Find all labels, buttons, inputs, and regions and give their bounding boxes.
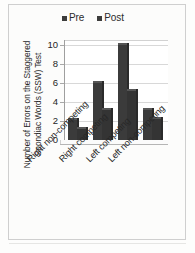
legend-item-post: Post: [97, 13, 124, 23]
page-frame-shadow: [9, 243, 186, 244]
chart-legend: Pre Post: [62, 13, 124, 23]
legend-item-pre: Pre: [62, 13, 84, 23]
legend-swatch-icon-post: [97, 16, 102, 21]
legend-label-post: Post: [104, 13, 124, 23]
bar-post-right-competing[interactable]: [102, 110, 111, 140]
bar-post-right-non-competing[interactable]: [77, 129, 86, 140]
y-tick-10: 10: [47, 40, 58, 50]
bar-group-right-competing: [93, 40, 111, 140]
bar-post-left-competing[interactable]: [127, 91, 136, 140]
y-tick-8: 8: [53, 59, 58, 69]
y-tick-4: 4: [53, 97, 58, 107]
y-tick-2: 2: [53, 116, 58, 126]
bar-group-right-non-competing: [68, 40, 86, 140]
bar-group-left-competing: [118, 40, 136, 140]
bar-post-left-non-competing[interactable]: [152, 119, 161, 140]
bar-pre-right-non-competing[interactable]: [68, 120, 77, 140]
chart-figure: Pre Post Number of Errors on the Stagger…: [0, 0, 195, 253]
plot-area: [60, 40, 168, 145]
legend-label-pre: Pre: [69, 13, 84, 23]
bar-group-left-non-competing: [143, 40, 161, 140]
y-axis-tick-labels: 0 2 4 6 8 10: [42, 40, 58, 145]
x-axis-line: [60, 144, 168, 145]
y-axis-title: Number of Errors on the Staggered Spondi…: [22, 27, 43, 183]
bar-series-container: [60, 40, 168, 140]
bar-pre-right-competing[interactable]: [93, 83, 102, 140]
y-tick-6: 6: [53, 78, 58, 88]
legend-swatch-icon-pre: [62, 16, 67, 21]
bar-pre-left-non-competing[interactable]: [143, 110, 152, 140]
bar-pre-left-competing[interactable]: [118, 45, 127, 140]
y-tick-0: 0: [53, 135, 58, 145]
